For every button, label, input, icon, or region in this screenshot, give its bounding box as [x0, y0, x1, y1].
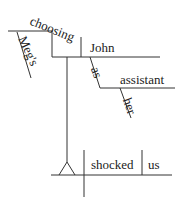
diagram-lines: [0, 0, 183, 207]
pedestal-left-leg: [59, 162, 67, 175]
word-us: us: [148, 158, 160, 171]
word-shocked: shocked: [91, 158, 134, 171]
pedestal-right-leg: [67, 162, 75, 175]
word-assistant: assistant: [120, 73, 164, 86]
word-john: John: [90, 41, 115, 54]
